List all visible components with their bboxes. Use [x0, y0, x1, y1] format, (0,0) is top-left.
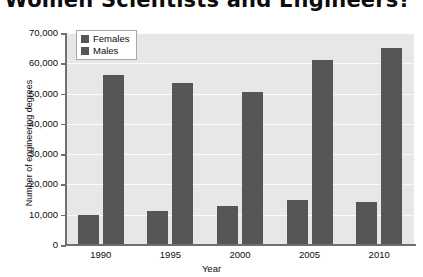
- y-tick-mark: [61, 184, 66, 186]
- bar-females-2010: [356, 202, 377, 245]
- y-tick-label: 40,000: [14, 118, 58, 129]
- y-tick-label: 20,000: [14, 178, 58, 189]
- bar-males-2000: [242, 92, 263, 245]
- y-tick-label: 70,000: [14, 27, 58, 38]
- bar-females-1995: [147, 211, 168, 245]
- y-tick-mark: [61, 94, 66, 96]
- legend-label: Females: [93, 33, 129, 44]
- bar-males-2005: [312, 60, 333, 245]
- x-tick-label: 2005: [275, 249, 345, 260]
- y-tick-mark: [61, 154, 66, 156]
- chart-legend: FemalesMales: [76, 30, 137, 60]
- y-tick-label: 60,000: [14, 57, 58, 68]
- x-axis-title: Year: [0, 263, 423, 274]
- bar-females-2005: [287, 200, 308, 245]
- legend-swatch-icon: [81, 35, 89, 43]
- y-tick-mark: [61, 215, 66, 217]
- x-tick-label: 1995: [135, 249, 205, 260]
- x-axis-line: [66, 244, 416, 246]
- y-axis-title: Number of engineering degrees: [24, 48, 34, 238]
- x-tick-label: 1990: [66, 249, 136, 260]
- bar-chart-figure: 010,00020,00030,00040,00050,00060,00070,…: [0, 0, 423, 277]
- bar-males-2010: [381, 48, 402, 245]
- plot-area: [66, 33, 414, 245]
- y-tick-mark: [61, 124, 66, 126]
- bar-males-1995: [172, 83, 193, 245]
- y-tick-mark: [61, 63, 66, 65]
- bar-females-1990: [78, 215, 99, 245]
- x-tick-label: 2000: [205, 249, 275, 260]
- legend-label: Males: [93, 45, 118, 56]
- gridline: [66, 63, 414, 64]
- y-tick-label: 50,000: [14, 88, 58, 99]
- y-tick-mark: [61, 245, 66, 247]
- y-tick-label: 30,000: [14, 148, 58, 159]
- y-axis-line: [65, 33, 67, 245]
- bar-males-1990: [103, 75, 124, 245]
- legend-swatch-icon: [81, 47, 89, 55]
- legend-item-males: Males: [81, 45, 129, 56]
- y-tick-label: 10,000: [14, 209, 58, 220]
- y-tick-label: 0: [14, 239, 58, 250]
- x-tick-label: 2010: [344, 249, 414, 260]
- legend-item-females: Females: [81, 33, 129, 44]
- y-tick-mark: [61, 33, 66, 35]
- bar-females-2000: [217, 206, 238, 245]
